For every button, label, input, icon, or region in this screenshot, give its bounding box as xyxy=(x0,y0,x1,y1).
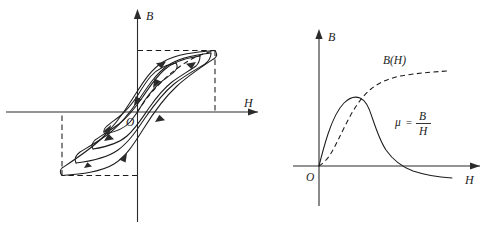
mu-denominator: H xyxy=(418,125,428,137)
mu-equals-sign: = xyxy=(406,117,412,128)
arrow-lower-right-icon xyxy=(155,115,165,122)
bh-curve xyxy=(319,71,447,166)
permeability-b-axis-arrow-icon xyxy=(315,29,322,39)
bh-curve-label: B(H) xyxy=(383,54,406,67)
outer-hysteresis-loop xyxy=(61,51,217,176)
arrow-upper-right-icon xyxy=(186,62,196,69)
permeability-x-axis-label: H xyxy=(464,173,475,187)
mu-numerator: B xyxy=(419,110,426,122)
hysteresis-svg: H B O xyxy=(0,0,275,228)
mu-symbol: μ xyxy=(394,116,401,129)
mu-formula-label: μ = B H xyxy=(394,110,431,137)
hysteresis-panel: H B O xyxy=(0,0,275,228)
permeability-svg: B(H) μ = B H H B O xyxy=(275,0,491,228)
hysteresis-y-axis-label: B xyxy=(146,9,154,23)
hysteresis-x-axis-label: H xyxy=(243,96,254,110)
permeability-h-axis-arrow-icon xyxy=(470,162,480,169)
arrow-descending-lower-icon xyxy=(119,153,127,163)
permeability-b-axis xyxy=(315,29,322,206)
permeability-h-axis xyxy=(293,162,480,169)
initial-magnetization-curve xyxy=(138,51,216,113)
permeability-y-axis-label: B xyxy=(328,30,336,44)
hysteresis-origin-label: O xyxy=(126,116,135,128)
arrow-bottom-left-icon xyxy=(84,162,92,168)
permeability-origin-label: O xyxy=(306,171,315,183)
outer-loop-lower-branch xyxy=(62,51,217,176)
permeability-panel: B(H) μ = B H H B O xyxy=(275,0,491,228)
b-axis-arrow-icon xyxy=(134,9,141,19)
physics-figure: H B O B(H) μ = xyxy=(0,0,491,228)
